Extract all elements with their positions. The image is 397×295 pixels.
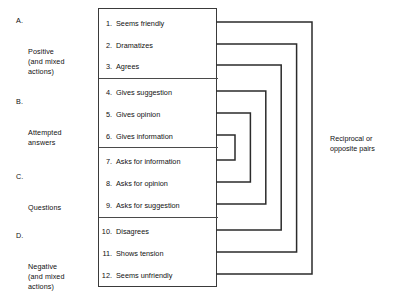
list-item-number: 10. (99, 220, 116, 243)
list-item: 11.Shows tension (99, 242, 218, 265)
list-item: 10.Disagrees (99, 220, 218, 243)
category-label-a: A. Positive (and mixed actions) (16, 16, 65, 98)
list-item-label: Seems unfriendly (116, 264, 172, 287)
pair-bracket (217, 65, 281, 230)
category-text-d: Negative (and mixed actions) (28, 262, 65, 293)
diagram-canvas: A. Positive (and mixed actions) B. Attem… (0, 0, 397, 295)
list-item: 6.Gives information (99, 125, 218, 148)
category-label-b: B. Attempted answers (16, 97, 62, 168)
list-item: 12.Seems unfriendly (99, 264, 218, 287)
group-divider (99, 78, 218, 79)
category-text-a: Positive (and mixed actions) (28, 47, 65, 78)
list-item-number: 9. (99, 194, 116, 217)
category-letter-b: B. (16, 97, 23, 107)
category-text-b: Attempted answers (28, 128, 62, 148)
list-item: 7.Asks for information (99, 150, 218, 173)
list-item: 8.Asks for opinion (99, 172, 218, 195)
category-text-c: Questions (28, 203, 61, 213)
group-divider (99, 147, 218, 148)
list-item-label: Asks for suggestion (116, 194, 180, 217)
pair-bracket (217, 135, 235, 160)
list-item: 2.Dramatizes (99, 34, 218, 57)
group-divider (99, 217, 218, 218)
category-letter-d: D. (16, 231, 23, 241)
category-list-box: 1.Seems friendly 2.Dramatizes 3.Agrees 4… (98, 8, 217, 287)
category-label-d: D. Negative (and mixed actions) (16, 231, 65, 295)
list-item-number: 4. (99, 81, 116, 104)
list-item-label: Disagrees (116, 220, 149, 243)
list-item-label: Seems friendly (116, 12, 164, 35)
list-item-number: 8. (99, 172, 116, 195)
list-item-number: 7. (99, 150, 116, 173)
category-letter-c: C. (16, 172, 23, 182)
pair-bracket (217, 91, 266, 204)
category-letter-a: A. (16, 16, 23, 26)
list-item-label: Gives information (116, 125, 173, 148)
pair-bracket (217, 113, 250, 182)
pair-bracket (217, 22, 312, 274)
category-label-c: C. Questions (16, 172, 61, 233)
list-item-number: 12. (99, 264, 116, 287)
list-item-number: 5. (99, 103, 116, 126)
list-item: 5.Gives opinion (99, 103, 218, 126)
list-item-label: Dramatizes (116, 34, 153, 57)
list-item-number: 11. (99, 242, 116, 265)
list-item-number: 6. (99, 125, 116, 148)
list-item-label: Asks for opinion (116, 172, 168, 195)
list-item-label: Asks for information (116, 150, 180, 173)
list-item-number: 2. (99, 34, 116, 57)
list-item-number: 1. (99, 12, 116, 35)
list-item-label: Shows tension (116, 242, 163, 265)
list-item: 1.Seems friendly (99, 12, 218, 35)
list-item-number: 3. (99, 55, 116, 78)
list-item: 9.Asks for suggestion (99, 194, 218, 217)
list-item: 4.Gives suggestion (99, 81, 218, 104)
list-item-label: Agrees (116, 55, 139, 78)
list-item-label: Gives opinion (116, 103, 160, 126)
pair-bracket (217, 44, 297, 252)
list-item-label: Gives suggestion (116, 81, 172, 104)
reciprocal-pairs-label: Reciprocal or opposite pairs (330, 134, 394, 155)
list-item: 3.Agrees (99, 55, 218, 78)
